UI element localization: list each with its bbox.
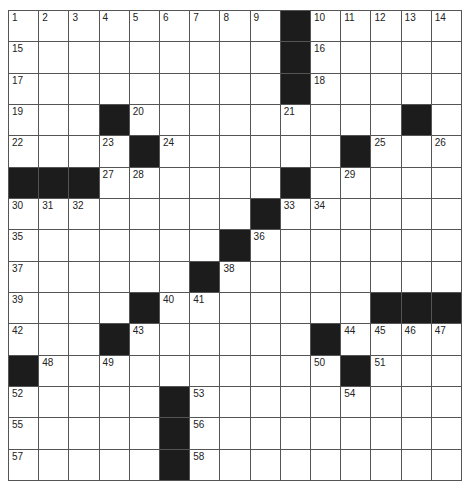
grid-cell[interactable] [129,417,159,448]
grid-cell[interactable]: 7 [189,10,219,41]
grid-cell[interactable]: 16 [310,41,340,72]
grid-cell[interactable]: 4 [99,10,129,41]
grid-cell[interactable] [99,73,129,104]
grid-cell[interactable] [250,261,280,292]
grid-cell[interactable] [401,229,431,260]
grid-cell[interactable] [68,135,98,166]
grid-cell[interactable]: 12 [370,10,400,41]
grid-cell[interactable] [340,449,370,480]
grid-cell[interactable] [250,355,280,386]
grid-cell[interactable] [38,386,68,417]
grid-cell[interactable]: 50 [310,355,340,386]
grid-cell[interactable] [431,73,461,104]
grid-cell[interactable] [129,73,159,104]
grid-cell[interactable] [340,229,370,260]
grid-cell[interactable] [189,323,219,354]
grid-cell[interactable] [219,386,249,417]
grid-cell[interactable] [370,417,400,448]
grid-cell[interactable]: 55 [8,417,38,448]
grid-cell[interactable] [340,73,370,104]
grid-cell[interactable] [250,41,280,72]
grid-cell[interactable] [340,261,370,292]
grid-cell[interactable] [99,229,129,260]
grid-cell[interactable] [370,41,400,72]
grid-cell[interactable] [250,73,280,104]
grid-cell[interactable] [219,292,249,323]
grid-cell[interactable]: 36 [250,229,280,260]
grid-cell[interactable]: 34 [310,198,340,229]
grid-cell[interactable] [310,292,340,323]
grid-cell[interactable]: 49 [99,355,129,386]
grid-cell[interactable] [68,449,98,480]
grid-cell[interactable] [129,229,159,260]
grid-cell[interactable]: 14 [431,10,461,41]
grid-cell[interactable]: 8 [219,10,249,41]
grid-cell[interactable] [129,386,159,417]
grid-cell[interactable] [38,261,68,292]
grid-cell[interactable]: 37 [8,261,38,292]
grid-cell[interactable] [68,386,98,417]
grid-cell[interactable] [431,104,461,135]
grid-cell[interactable] [219,449,249,480]
grid-cell[interactable]: 22 [8,135,38,166]
grid-cell[interactable] [189,167,219,198]
grid-cell[interactable]: 47 [431,323,461,354]
grid-cell[interactable]: 38 [219,261,249,292]
grid-cell[interactable] [219,135,249,166]
grid-cell[interactable]: 20 [129,104,159,135]
grid-cell[interactable] [370,229,400,260]
grid-cell[interactable] [250,292,280,323]
grid-cell[interactable] [250,323,280,354]
grid-cell[interactable] [99,198,129,229]
grid-cell[interactable]: 1 [8,10,38,41]
grid-cell[interactable] [219,417,249,448]
grid-cell[interactable] [189,73,219,104]
grid-cell[interactable]: 53 [189,386,219,417]
grid-cell[interactable]: 30 [8,198,38,229]
grid-cell[interactable] [431,355,461,386]
grid-cell[interactable] [68,355,98,386]
grid-cell[interactable]: 23 [99,135,129,166]
grid-cell[interactable] [310,135,340,166]
grid-cell[interactable] [401,135,431,166]
grid-cell[interactable] [401,261,431,292]
grid-cell[interactable] [159,41,189,72]
grid-cell[interactable] [68,73,98,104]
grid-cell[interactable]: 19 [8,104,38,135]
grid-cell[interactable]: 31 [38,198,68,229]
grid-cell[interactable] [370,167,400,198]
grid-cell[interactable] [431,167,461,198]
grid-cell[interactable]: 41 [189,292,219,323]
grid-cell[interactable] [129,198,159,229]
grid-cell[interactable] [159,104,189,135]
grid-cell[interactable] [129,261,159,292]
grid-cell[interactable] [129,449,159,480]
grid-cell[interactable] [99,417,129,448]
grid-cell[interactable] [340,104,370,135]
grid-cell[interactable]: 52 [8,386,38,417]
grid-cell[interactable]: 39 [8,292,38,323]
grid-cell[interactable] [159,198,189,229]
grid-cell[interactable] [401,73,431,104]
grid-cell[interactable]: 27 [99,167,129,198]
grid-cell[interactable] [99,41,129,72]
grid-cell[interactable] [401,198,431,229]
grid-cell[interactable] [310,167,340,198]
grid-cell[interactable] [159,261,189,292]
grid-cell[interactable] [38,73,68,104]
grid-cell[interactable] [310,417,340,448]
grid-cell[interactable] [280,417,310,448]
grid-cell[interactable] [68,229,98,260]
grid-cell[interactable] [219,167,249,198]
grid-cell[interactable] [250,104,280,135]
grid-cell[interactable] [38,41,68,72]
grid-cell[interactable] [310,261,340,292]
grid-cell[interactable]: 40 [159,292,189,323]
grid-cell[interactable]: 21 [280,104,310,135]
grid-cell[interactable]: 35 [8,229,38,260]
grid-cell[interactable] [250,449,280,480]
grid-cell[interactable] [431,386,461,417]
grid-cell[interactable] [159,323,189,354]
grid-cell[interactable]: 5 [129,10,159,41]
grid-cell[interactable] [431,198,461,229]
